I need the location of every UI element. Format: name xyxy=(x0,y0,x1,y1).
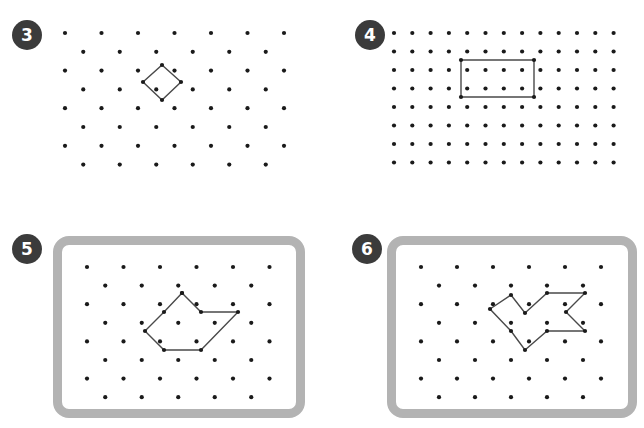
shape-vertex-dot xyxy=(160,98,164,102)
shape-vertex-dot xyxy=(564,310,568,314)
shape-vertex-dot xyxy=(545,329,549,333)
shape-vertex-dot xyxy=(141,80,145,84)
shape-vertex-dot xyxy=(162,310,166,314)
shape-vertex-dot xyxy=(180,291,184,295)
shape-vertex-dot xyxy=(583,291,587,295)
geoboard-6-framed[interactable] xyxy=(387,236,637,418)
shape-vertex-dot xyxy=(459,58,463,62)
shape-vertex-dot xyxy=(199,348,203,352)
shape-vertex-dot xyxy=(236,310,240,314)
shape-vertex-dot xyxy=(523,348,527,352)
shape-vertex-dot xyxy=(532,58,536,62)
shape-vertex-dot xyxy=(143,329,147,333)
shape-outline[interactable] xyxy=(145,293,238,350)
shape-rectangle-4[interactable] xyxy=(388,6,618,166)
shape-vertex-dot xyxy=(162,348,166,352)
panel-number-badge-4: 4 xyxy=(355,20,385,50)
shape-outline[interactable] xyxy=(490,293,585,350)
shape-outline[interactable] xyxy=(461,60,534,97)
shape-vertex-dot xyxy=(509,329,513,333)
shape-vertex-dot xyxy=(488,307,492,311)
shape-vertex-dot xyxy=(583,329,587,333)
shape-vertex-dot xyxy=(545,291,549,295)
worksheet-page: 3 4 5 6 xyxy=(0,0,644,428)
shape-vertex-dot xyxy=(459,95,463,99)
panel-number-badge-3: 3 xyxy=(12,20,42,50)
shape-vertex-dot xyxy=(179,80,183,84)
geoboard-3[interactable] xyxy=(55,6,295,166)
shape-vertex-dot xyxy=(509,293,513,297)
shape-outline[interactable] xyxy=(143,65,181,100)
panel-number-badge-6: 6 xyxy=(352,234,382,264)
shape-arrow-6[interactable] xyxy=(396,245,644,427)
shape-vertex-dot xyxy=(199,310,203,314)
shape-vertex-dot xyxy=(523,311,527,315)
panel-number-badge-5: 5 xyxy=(12,234,42,264)
shape-diamond-3[interactable] xyxy=(55,6,295,166)
geoboard-5-framed[interactable] xyxy=(53,236,305,418)
shape-vertex-dot xyxy=(532,95,536,99)
shape-vertex-dot xyxy=(160,63,164,67)
geoboard-4[interactable] xyxy=(388,6,618,166)
shape-polygon-5[interactable] xyxy=(62,245,314,427)
